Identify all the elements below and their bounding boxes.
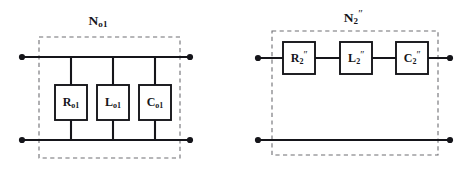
resistor-label-ro1-subscript: o1 — [71, 101, 79, 110]
resistor-label-r2dp: R2″ — [291, 50, 307, 66]
right-network-top-left-terminal-dot[interactable] — [255, 55, 261, 61]
right-network-title-base: N — [344, 10, 354, 25]
capacitor-label-co1-base: C — [147, 95, 156, 109]
capacitor-label-c2dp-superscript: ″ — [416, 49, 420, 60]
resistor-label-r2dp-superscript: ″ — [303, 49, 307, 60]
left-network-bottom-right-terminal-dot[interactable] — [187, 137, 193, 143]
right-network-title-superscript: ″ — [358, 7, 362, 19]
inductor-label-lo1-subscript: o1 — [113, 101, 121, 110]
inductor-label-lo1-base: L — [105, 95, 113, 109]
right-network-bottom-right-terminal-dot[interactable] — [447, 137, 453, 143]
right-network-top-right-terminal-dot[interactable] — [447, 55, 453, 61]
left-network-bottom-left-terminal-dot[interactable] — [19, 137, 25, 143]
capacitor-label-co1-subscript: o1 — [155, 101, 163, 110]
left-network-title-subscript: o1 — [98, 19, 107, 29]
inductor-label-l2dp: L2″ — [348, 50, 364, 66]
inductor-label-l2dp-base: L — [348, 51, 356, 65]
resistor-label-r2dp-base: R — [291, 51, 300, 65]
circuit-svg — [0, 0, 476, 176]
capacitor-label-c2dp-base: C — [404, 51, 413, 65]
resistor-label-ro1-base: R — [63, 95, 72, 109]
left-network-title-base: N — [88, 13, 98, 28]
resistor-label-ro1: Ro1 — [63, 94, 80, 110]
right-network-title: N2″ — [344, 7, 363, 26]
inductor-label-l2dp-superscript: ″ — [360, 49, 364, 60]
left-network-top-left-terminal-dot[interactable] — [19, 54, 25, 60]
left-network-title: No1 — [88, 10, 107, 29]
circuit-diagram: No1 N2″ Ro1 Lo1 Co1 R2″ L2″ C2″ — [0, 0, 476, 176]
left-network-top-right-terminal-dot[interactable] — [187, 54, 193, 60]
capacitor-label-c2dp: C2″ — [404, 50, 420, 66]
inductor-label-lo1: Lo1 — [105, 94, 121, 110]
right-network-bottom-left-terminal-dot[interactable] — [255, 137, 261, 143]
capacitor-label-co1: Co1 — [147, 94, 164, 110]
